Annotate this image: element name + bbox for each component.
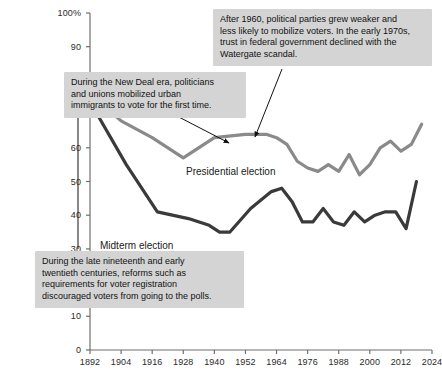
x-axis-tick-label: 1952 — [235, 357, 255, 367]
y-axis-tick-label: 50 — [0, 177, 81, 187]
annotation-line: immigrants to vote for the first time. — [71, 100, 239, 112]
annotation-line: and unions mobilized urban — [71, 89, 239, 101]
x-axis-tick-label: 1904 — [111, 357, 131, 367]
x-axis-tick-label: 2012 — [391, 357, 411, 367]
x-axis-tick-label: 1988 — [329, 357, 349, 367]
annotation-post-1960-note: After 1960, political parties grew weake… — [213, 9, 432, 66]
x-axis-tick-label: 1928 — [173, 357, 193, 367]
y-axis-tick-label: 60 — [0, 143, 81, 153]
annotation-line: During the late nineteenth and early — [42, 256, 237, 268]
x-axis-tick-label: 1964 — [266, 357, 286, 367]
x-axis-tick-label: 1916 — [142, 357, 162, 367]
annotation-arrow-post-1960-note — [255, 69, 282, 137]
annotation-reform-note: During the late nineteenth and earlytwen… — [35, 251, 244, 308]
annotation-arrow-new-deal-note — [175, 115, 229, 143]
annotation-new-deal-note: During the New Deal era, politiciansand … — [64, 72, 246, 118]
annotation-line: During the New Deal era, politicians — [71, 77, 239, 89]
x-axis-tick-label: 1940 — [204, 357, 224, 367]
annotation-line: trust in federal government declined wit… — [220, 37, 425, 49]
x-axis-tick-label: 1976 — [297, 357, 317, 367]
series-label-midterm: Midterm election — [100, 240, 173, 251]
x-axis-tick-label: 2024 — [422, 357, 442, 367]
y-axis-tick-label: 10 — [0, 311, 81, 321]
y-axis-tick-label: 90 — [0, 42, 81, 52]
annotation-line: After 1960, political parties grew weake… — [220, 14, 425, 26]
x-axis-tick-label: 1892 — [80, 357, 100, 367]
annotation-line: twentieth centuries, reforms such as — [42, 268, 237, 280]
x-axis-tick-label: 2000 — [360, 357, 380, 367]
y-axis-tick-label: 0 — [0, 345, 81, 355]
annotation-line: less likely to mobilize voters. In the e… — [220, 26, 425, 38]
annotation-line: Watergate scandal. — [220, 49, 425, 61]
annotation-line: discouraged voters from going to the pol… — [42, 291, 237, 303]
annotation-line: requirements for voter registration — [42, 279, 237, 291]
y-axis-tick-label: 100% — [0, 8, 81, 18]
y-axis-tick-label: 40 — [0, 210, 81, 220]
series-label-presidential: Presidential election — [186, 166, 276, 177]
